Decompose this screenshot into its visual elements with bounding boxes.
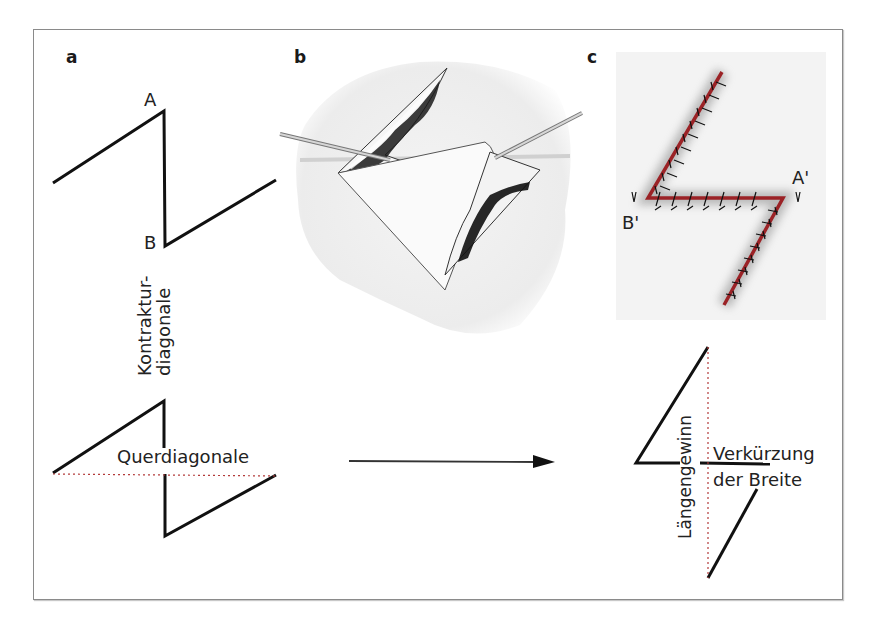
transformation-arrow	[0, 0, 872, 630]
